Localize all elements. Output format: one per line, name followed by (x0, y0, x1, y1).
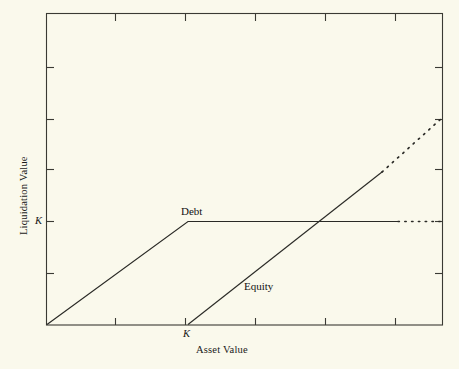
equity-curve-label: Equity (244, 280, 273, 292)
y-axis-title: Liquidation Value (18, 156, 29, 235)
chart-background (0, 0, 459, 369)
x-axis-title: Asset Value (196, 344, 248, 355)
y-axis-tick-label-K: K (35, 215, 42, 226)
x-axis-tick-label-K: K (183, 328, 190, 339)
debt-curve-label: Debt (181, 205, 202, 217)
payoff-chart (0, 0, 459, 369)
